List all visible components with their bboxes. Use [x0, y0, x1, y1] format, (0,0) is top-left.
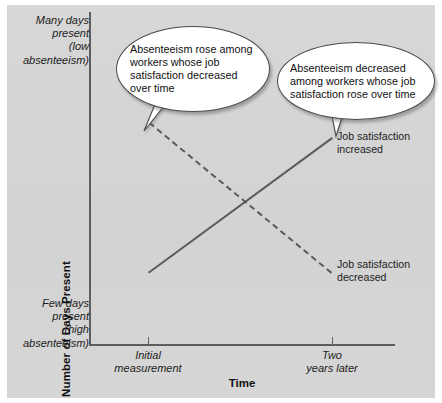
x-tick-label-1-line-1: Initial	[83, 349, 213, 362]
y-axis-top-label: Many days present (low absenteeism)	[0, 14, 89, 67]
y-axis-bottom-label-line-4: absenteeism)	[0, 337, 89, 350]
callout-bubble-right-text: Absenteeism decreased among workers whos…	[278, 62, 434, 101]
x-tick-initial-measurement	[148, 337, 149, 344]
callout-bubble-left: Absenteeism rose among workers whose job…	[116, 26, 270, 112]
x-tick-two-years-later	[332, 337, 333, 344]
x-tick-label-two-years-later: Two years later	[267, 349, 397, 375]
x-axis-line	[89, 344, 395, 346]
y-axis-bottom-label-line-1: Few days	[0, 297, 89, 310]
y-axis-top-label-line-2: present	[0, 27, 89, 40]
x-axis-title: Time	[182, 377, 302, 389]
x-tick-label-2-line-2: years later	[267, 362, 397, 375]
y-axis-top-label-line-1: Many days	[0, 14, 89, 27]
x-tick-label-2-line-1: Two	[267, 349, 397, 362]
x-tick-label-1-line-2: measurement	[83, 362, 213, 375]
chart-figure: Many days present (low absenteeism) Few …	[0, 0, 442, 403]
callout-bubble-right: Absenteeism decreased among workers whos…	[277, 42, 435, 120]
callout-bubble-left-text: Absenteeism rose among workers whose job…	[117, 43, 269, 95]
y-axis-title: Number of Days Present	[60, 229, 72, 403]
series-label-decreased-line-1: Job satisfaction	[337, 258, 442, 271]
y-axis-bottom-label-line-2: present	[0, 310, 89, 323]
y-axis-bottom-label: Few days present (high absenteeism)	[0, 297, 89, 350]
y-axis-top-label-line-3: (low	[0, 40, 89, 53]
series-label-decreased: Job satisfaction decreased	[337, 258, 442, 283]
x-tick-label-initial-measurement: Initial measurement	[83, 349, 213, 375]
y-axis-top-label-line-4: absenteeism)	[0, 54, 89, 67]
y-axis-title-wrapper: Number of Days Present	[0, 147, 167, 207]
y-axis-bottom-label-line-3: (high	[0, 323, 89, 336]
series-label-increased-line-2: increased	[337, 143, 442, 156]
series-label-decreased-line-2: decreased	[337, 271, 442, 284]
